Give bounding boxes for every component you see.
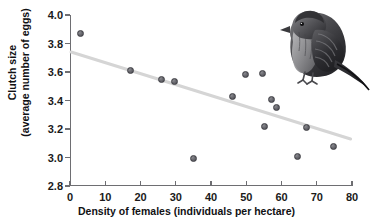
y-axis-tick-label: 3.4 [48,95,63,107]
y-axis-title-line1: Clutch size [6,0,19,163]
x-axis-tick-label: 30 [170,191,182,203]
y-axis-tick-label: 3.0 [48,152,63,164]
x-axis-title: Density of females (individuals per hect… [0,205,373,217]
y-axis-tick-label: 3.6 [48,66,63,78]
y-axis-tick-label: 4.0 [48,9,63,21]
data-point [242,71,249,78]
x-axis-tick-label: 40 [205,191,217,203]
y-axis-title-line2: (average number of eggs) [18,0,31,163]
x-axis-tick-label: 80 [346,191,358,203]
data-point [158,76,165,83]
data-point [171,78,178,85]
y-axis-tick-label: 3.2 [48,123,63,135]
data-point [259,70,266,77]
data-point [261,123,268,130]
data-point [229,93,236,100]
x-axis-tick-label: 60 [275,191,287,203]
data-point [294,153,301,160]
x-axis-tick-label: 10 [99,191,111,203]
bird-photo [277,4,372,96]
y-axis-tick-label: 2.8 [48,180,63,192]
x-axis-tick-label: 50 [240,191,252,203]
x-axis-tick-label: 20 [134,191,146,203]
x-axis-tick-label: 70 [311,191,323,203]
data-point [127,67,134,74]
data-point [330,143,337,150]
scatter-plot-figure: 2.83.03.23.43.63.84.0 01020304050607080 … [0,0,373,224]
data-point [190,155,197,162]
bird-illustration [277,4,372,96]
data-point [273,104,280,111]
data-point [303,124,310,131]
data-point [268,96,275,103]
x-axis-tick-label: 0 [67,191,73,203]
y-axis-title: Clutch size (average number of eggs) [6,0,31,163]
data-point [77,30,84,37]
y-axis-tick-label: 3.8 [48,38,63,50]
